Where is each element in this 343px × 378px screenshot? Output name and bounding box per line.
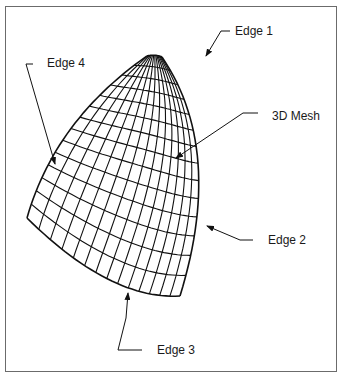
edge1-label: Edge 1: [235, 25, 273, 37]
3d-mesh-surface: [27, 55, 199, 296]
edge4-leader: [26, 64, 55, 164]
mesh-line: [31, 204, 186, 275]
mesh-line: [50, 56, 149, 240]
mesh-leader: [176, 113, 258, 158]
edge3-leader: [118, 293, 142, 350]
edge2-label: Edge 2: [268, 234, 306, 246]
edge3-label: Edge 3: [157, 344, 195, 356]
mesh-line: [62, 55, 150, 249]
edge2-leader: [207, 226, 253, 240]
mesh-line: [42, 178, 194, 236]
mesh-line: [48, 165, 197, 217]
edge4-label: Edge 4: [47, 57, 85, 69]
edge1-leader: [206, 31, 230, 56]
mesh-label: 3D Mesh: [272, 110, 320, 122]
